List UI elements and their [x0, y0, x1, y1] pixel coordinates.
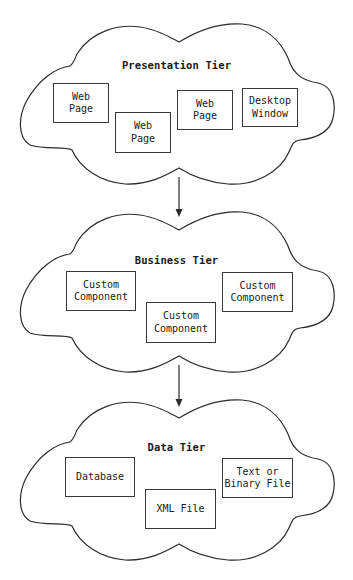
- database-box: Database: [65, 457, 135, 497]
- desktop-window-box: Desktop Window: [242, 88, 298, 127]
- xml-file-box: XML File: [145, 489, 216, 529]
- data-tier-title: Data Tier: [0, 441, 353, 453]
- custom-component-box-3: Custom Component: [222, 272, 293, 312]
- web-page-box-2: Web Page: [115, 112, 171, 153]
- web-page-box-3: Web Page: [177, 90, 233, 130]
- arrow-business-to-data: [176, 365, 183, 407]
- business-tier-title: Business Tier: [0, 254, 353, 266]
- custom-component-box-1: Custom Component: [66, 271, 136, 311]
- web-page-box-1: Web Page: [53, 83, 109, 123]
- custom-component-box-2: Custom Component: [146, 302, 216, 343]
- arrow-presentation-to-business: [176, 177, 183, 217]
- presentation-tier-title: Presentation Tier: [0, 59, 353, 71]
- text-or-binary-file-box: Text or Binary File: [222, 458, 293, 498]
